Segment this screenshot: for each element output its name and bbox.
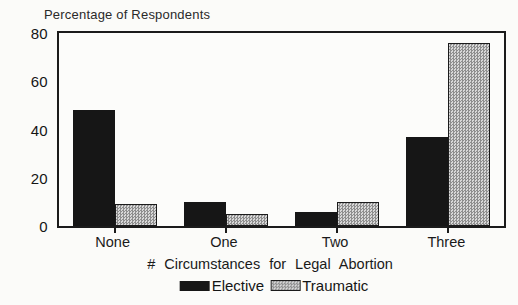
category-label-none: None — [95, 234, 130, 250]
y-tick-label: 0 — [39, 218, 48, 235]
bar-elective-none — [73, 110, 115, 226]
x-tick-mark — [447, 226, 449, 233]
y-tick-label: 80 — [31, 25, 48, 42]
legend-label-traumatic: Traumatic — [302, 277, 368, 294]
y-tick-label: 20 — [31, 169, 48, 186]
category-label-two: Two — [322, 234, 349, 250]
category-label-three: Three — [427, 234, 465, 250]
x-tick-mark — [114, 226, 116, 233]
legend-label-elective: Elective — [212, 277, 265, 294]
bar-traumatic-one — [226, 214, 268, 226]
bar-traumatic-two — [337, 202, 379, 226]
y-axis-labels: 020406080 — [0, 31, 52, 224]
traumatic-swatch-icon — [270, 280, 300, 291]
bar-traumatic-none — [115, 204, 157, 226]
chart-title: Percentage of Respondents — [44, 7, 210, 22]
y-tick-label: 60 — [31, 73, 48, 90]
x-tick-mark — [336, 226, 338, 233]
x-axis-title: # Circumstances for Legal Abortion — [147, 256, 393, 272]
bar-elective-two — [295, 212, 337, 226]
bar-traumatic-three — [448, 43, 490, 226]
bar-elective-one — [184, 202, 226, 226]
legend-item-elective: Elective — [180, 277, 265, 294]
y-tick-label: 40 — [31, 121, 48, 138]
chart-canvas: Percentage of Respondents 020406080 None… — [0, 0, 518, 305]
legend-item-traumatic: Traumatic — [270, 277, 368, 294]
plot-area — [57, 31, 506, 228]
x-axis-labels: NoneOneTwoThree — [57, 234, 506, 250]
elective-swatch-icon — [180, 281, 210, 291]
x-tick-mark — [225, 226, 227, 233]
bar-elective-three — [406, 137, 448, 226]
category-label-one: One — [210, 234, 237, 250]
legend: Elective Traumatic — [180, 277, 369, 294]
